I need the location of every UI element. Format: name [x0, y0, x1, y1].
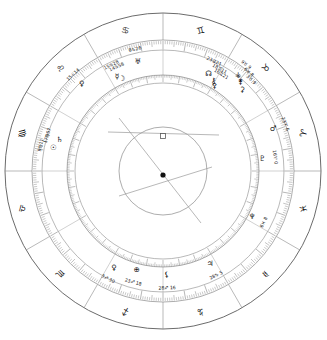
planet-glyph-jupiter: ♃ [207, 259, 214, 268]
planet-glyph-fortune: ⊕ [133, 265, 139, 274]
planet-glyph-neptune: ♆ [249, 212, 256, 221]
planet-glyph-saturn: ♄ [56, 135, 63, 144]
planet-glyph-eris: ♀ [111, 263, 117, 272]
planet-glyph-sun: ☉ [50, 143, 57, 152]
planet-glyph-moon: ☽ [119, 74, 126, 83]
planet-glyph-ceres: ⚳ [239, 85, 245, 94]
planet-glyph-lilith: ⚸ [164, 270, 170, 279]
planet-glyph-mars: ♂ [270, 124, 277, 133]
planet-glyph-pallas: ⚴ [212, 81, 218, 90]
planet-degree-lilith: 28♐ 16 [158, 285, 176, 291]
chart-center-dot [160, 172, 165, 177]
astrology-chart: ♋♊♉♈♓♒♑♐♏♎♍♌ ☉9♍11♄17♍57♀15♌14☿15♋28☽14♋… [0, 0, 327, 340]
planet-glyph-uranus: ♅ [134, 57, 141, 66]
chart-canvas: ♋♊♉♈♓♒♑♐♏♎♍♌ ☉9♍11♄17♍57♀15♌14☿15♋28☽14♋… [0, 0, 327, 340]
planet-glyph-pluto: ♇ [259, 154, 266, 163]
planet-glyph-venus: ♀ [79, 79, 85, 88]
